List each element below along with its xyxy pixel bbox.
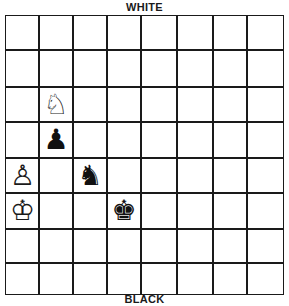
grid-line-vertical <box>246 16 248 294</box>
black-king-icon[interactable]: ♚ <box>107 193 141 229</box>
grid-line-vertical <box>176 16 178 294</box>
chess-board: ♘♟♙♞♔♚ <box>5 15 284 295</box>
black-knight-icon[interactable]: ♞ <box>73 158 107 193</box>
white-king-icon[interactable]: ♔ <box>6 193 39 229</box>
white-pawn-icon[interactable]: ♙ <box>6 158 39 193</box>
black-pawn-icon[interactable]: ♟ <box>39 122 73 158</box>
grid-line-vertical <box>106 16 108 294</box>
white-knight-icon[interactable]: ♘ <box>39 87 73 122</box>
grid-line-horizontal <box>6 49 283 51</box>
grid-line-horizontal <box>6 192 283 194</box>
white-side-label: WHITE <box>0 1 289 13</box>
grid-line-vertical <box>212 16 214 294</box>
grid-line-vertical <box>140 16 142 294</box>
grid-line-horizontal <box>6 228 283 230</box>
grid-line-horizontal <box>6 262 283 264</box>
black-side-label: BLACK <box>0 293 289 305</box>
